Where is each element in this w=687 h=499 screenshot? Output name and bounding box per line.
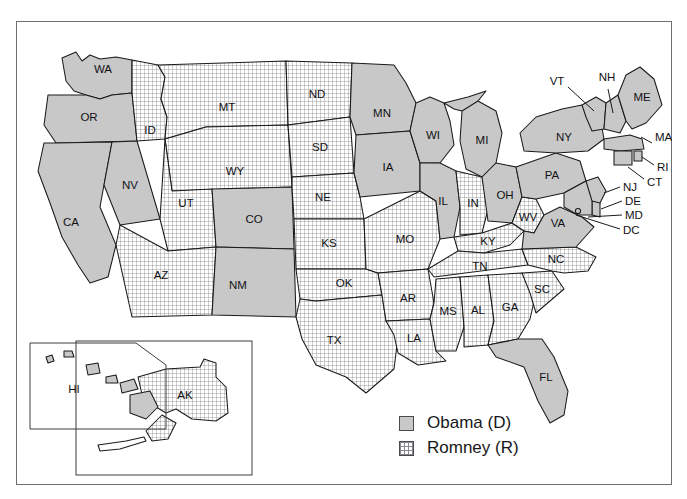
us-map-svg[interactable]: WA OR CA NV ID MT WY UT: [16, 21, 672, 485]
state-label-ID: ID: [144, 124, 156, 136]
state-CO[interactable]: CO: [212, 187, 294, 249]
state-CT[interactable]: [614, 151, 632, 165]
state-label-KS: KS: [321, 237, 337, 249]
state-TX[interactable]: TX: [296, 295, 398, 393]
inset-alaska[interactable]: AK: [76, 341, 252, 475]
state-label-CT: CT: [647, 176, 662, 188]
state-WA[interactable]: WA: [62, 52, 132, 99]
state-label-NM: NM: [229, 279, 247, 291]
state-MI[interactable]: MI: [444, 91, 502, 177]
state-SD[interactable]: SD: [288, 117, 354, 177]
state-label-TN: TN: [472, 260, 487, 272]
state-NM[interactable]: NM: [212, 247, 296, 317]
legend-item-obama[interactable]: Obama (D): [399, 412, 519, 434]
map-legend: Obama (D) Romney (R): [399, 412, 519, 462]
state-label-AZ: AZ: [154, 269, 169, 281]
leader-line-NJ: [604, 187, 620, 193]
state-label-WY: WY: [226, 165, 245, 177]
state-label-OK: OK: [336, 277, 353, 289]
state-label-OR: OR: [80, 111, 97, 123]
state-label-TX: TX: [327, 334, 342, 346]
state-label-FL: FL: [539, 371, 553, 383]
state-label-NJ: NJ: [623, 181, 637, 193]
election-map-figure: 2012 WA OR CA NV ID: [0, 0, 687, 499]
state-label-SD: SD: [312, 141, 328, 153]
state-label-AK: AK: [177, 389, 193, 401]
state-label-DC: DC: [623, 224, 640, 236]
state-label-MT: MT: [219, 101, 236, 113]
leader-line-CT: [628, 167, 644, 179]
state-MO[interactable]: MO: [364, 191, 440, 273]
state-label-AL: AL: [471, 304, 486, 316]
state-label-SC: SC: [534, 283, 550, 295]
state-label-AR: AR: [400, 292, 416, 304]
state-NV[interactable]: NV: [104, 141, 160, 225]
state-label-HI: HI: [68, 383, 80, 395]
state-label-CA: CA: [63, 216, 79, 228]
state-label-OH: OH: [496, 189, 513, 201]
state-label-GA: GA: [502, 301, 519, 313]
state-label-VA: VA: [551, 217, 566, 229]
legend-swatch-obama: [399, 416, 414, 431]
state-label-ME: ME: [633, 91, 651, 103]
state-MA[interactable]: [604, 135, 644, 151]
legend-swatch-romney: [399, 441, 414, 456]
state-label-MD: MD: [625, 209, 643, 221]
state-label-CO: CO: [245, 213, 262, 225]
state-OR[interactable]: OR: [44, 93, 137, 143]
state-label-DE: DE: [625, 195, 641, 207]
legend-label-romney: Romney (R): [427, 438, 519, 458]
state-label-MO: MO: [396, 233, 415, 245]
state-ND[interactable]: ND: [286, 61, 352, 125]
state-label-PA: PA: [545, 169, 560, 181]
state-label-IA: IA: [383, 161, 394, 173]
legend-label-obama: Obama (D): [427, 413, 511, 433]
state-NE[interactable]: NE: [292, 173, 364, 219]
state-label-MA: MA: [655, 131, 672, 143]
state-label-ND: ND: [309, 88, 326, 100]
state-RI[interactable]: [634, 151, 642, 161]
state-label-IN: IN: [467, 197, 479, 209]
state-AR[interactable]: AR: [378, 269, 434, 321]
legend-item-romney[interactable]: Romney (R): [399, 437, 519, 459]
state-label-NE: NE: [315, 191, 331, 203]
state-label-UT: UT: [178, 197, 193, 209]
leader-line-RI: [642, 157, 654, 165]
state-KS[interactable]: KS: [294, 219, 366, 269]
state-label-NY: NY: [556, 131, 572, 143]
state-label-MN: MN: [373, 107, 391, 119]
state-label-LA: LA: [407, 332, 421, 344]
state-MS[interactable]: MS: [430, 277, 464, 351]
state-label-WI: WI: [426, 129, 440, 141]
state-label-WA: WA: [94, 63, 112, 75]
state-DE[interactable]: [592, 201, 600, 217]
state-FL[interactable]: FL: [488, 339, 568, 423]
state-label-KY: KY: [480, 235, 496, 247]
state-CA[interactable]: CA: [38, 142, 116, 283]
state-label-NV: NV: [122, 179, 138, 191]
state-DC[interactable]: [575, 208, 580, 213]
state-label-NH: NH: [599, 71, 616, 83]
state-MN[interactable]: MN: [350, 63, 416, 135]
state-label-VT: VT: [550, 75, 565, 87]
state-TN[interactable]: TN: [428, 249, 528, 277]
state-WY[interactable]: WY: [165, 125, 292, 191]
leader-line-DE: [601, 201, 622, 209]
state-label-MS: MS: [439, 305, 457, 317]
state-WI[interactable]: WI: [410, 97, 454, 163]
state-label-MI: MI: [476, 134, 489, 146]
state-label-RI: RI: [657, 161, 669, 173]
state-IA[interactable]: IA: [354, 131, 420, 197]
state-label-NC: NC: [548, 253, 565, 265]
state-label-WV: WV: [519, 211, 538, 223]
state-label-IL: IL: [438, 195, 448, 207]
state-NC[interactable]: NC: [522, 247, 596, 273]
